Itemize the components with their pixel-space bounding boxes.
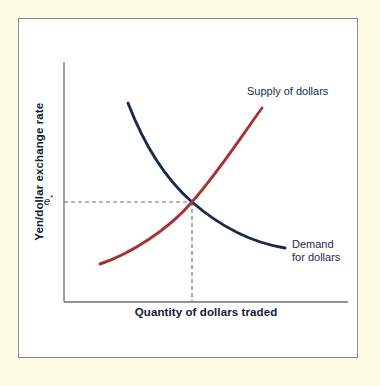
equilibrium-rate-tick-label: e* bbox=[44, 193, 53, 208]
x-axis-label: Quantity of dollars traded bbox=[64, 306, 348, 320]
demand-curve bbox=[128, 103, 285, 248]
supply-curve bbox=[100, 108, 262, 264]
demand-label-line-1: Demand bbox=[292, 238, 334, 250]
figure-root: Yen/dollar exchange rate Quantity of dol… bbox=[0, 0, 380, 386]
y-axis-label: Yen/dollar exchange rate bbox=[33, 87, 47, 257]
equilibrium-star-glyph: * bbox=[50, 193, 53, 202]
demand-label-line-2: for dollars bbox=[292, 251, 340, 263]
chart-plot-area bbox=[0, 0, 380, 386]
supply-curve-label: Supply of dollars bbox=[247, 85, 328, 98]
demand-curve-label: Demandfor dollars bbox=[292, 238, 340, 264]
